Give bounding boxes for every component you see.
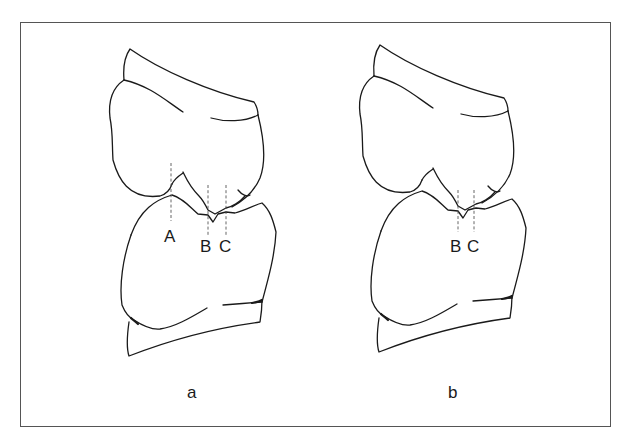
label-B-panel-b: B — [450, 238, 462, 255]
panel-a-drawing — [110, 49, 276, 356]
label-B: B — [200, 238, 212, 255]
upper-tooth-b — [360, 45, 514, 210]
label-C: C — [219, 238, 232, 255]
label-C-panel-b: C — [467, 238, 480, 255]
panel-caption-a: a — [187, 384, 196, 401]
panel-caption-b: b — [448, 384, 457, 401]
lower-tooth-b — [371, 191, 526, 352]
label-A: A — [164, 228, 176, 245]
tooth-diagram — [0, 0, 630, 444]
upper-tooth-a — [110, 49, 264, 214]
panel-b-drawing — [360, 45, 526, 352]
lower-tooth-a — [121, 195, 276, 356]
